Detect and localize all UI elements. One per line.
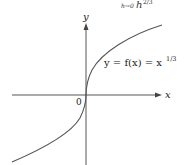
limit-formula-fragment: h→0 h 2/3	[121, 0, 153, 10]
y-axis-label: y	[82, 11, 89, 22]
limit-denominator-exponent: 2/3	[143, 0, 153, 5]
x-axis-arrow-icon	[155, 93, 162, 98]
y-axis-arrow-icon	[84, 23, 89, 30]
curve-label-exponent: 1/3	[166, 55, 176, 63]
cube-root-curve	[12, 25, 162, 162]
x-axis-label: x	[165, 89, 171, 100]
cube-root-graph: h→0 h 2/3 x y 0 y = f(x) = x 1/3	[0, 0, 189, 165]
curve-label-text: y = f(x) = x	[103, 57, 162, 68]
limit-denominator-base: h	[136, 0, 142, 10]
origin-label: 0	[76, 97, 82, 107]
curve-label: y = f(x) = x 1/3	[103, 55, 176, 68]
svg-text:y = f(x) = x: y = f(x) = x	[103, 57, 162, 68]
limit-subscript: h→0	[121, 2, 134, 9]
